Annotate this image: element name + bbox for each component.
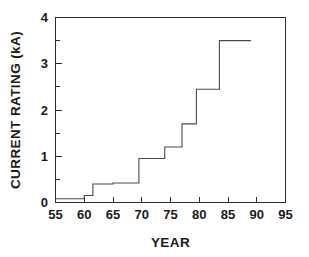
x-tick-labels: 55 60 65 70 75 80 85 90 95	[48, 207, 292, 222]
chart-figure: 0 1 2 3 4 55 60 65 70 75 80 85 90 95 YEA…	[0, 0, 309, 257]
x-tick-label-80: 80	[192, 207, 206, 222]
y-tick-label-3: 3	[41, 56, 48, 71]
x-tick-label-70: 70	[135, 207, 149, 222]
x-tick-label-60: 60	[77, 207, 91, 222]
y-tick-label-0: 0	[41, 195, 48, 210]
x-tick-label-95: 95	[278, 207, 292, 222]
y-tick-label-4: 4	[41, 10, 49, 25]
x-axis-title: YEAR	[151, 235, 190, 250]
x-tick-label-65: 65	[106, 207, 120, 222]
y-axis-title: CURRENT RATING (kA)	[8, 31, 23, 189]
x-tick-label-55: 55	[48, 207, 62, 222]
step-chart-svg: 0 1 2 3 4 55 60 65 70 75 80 85 90 95 YEA…	[0, 0, 309, 257]
y-tick-label-2: 2	[41, 103, 48, 118]
x-tick-label-85: 85	[221, 207, 235, 222]
x-tick-label-75: 75	[163, 207, 177, 222]
y-tick-label-1: 1	[41, 149, 48, 164]
x-tick-label-90: 90	[250, 207, 264, 222]
